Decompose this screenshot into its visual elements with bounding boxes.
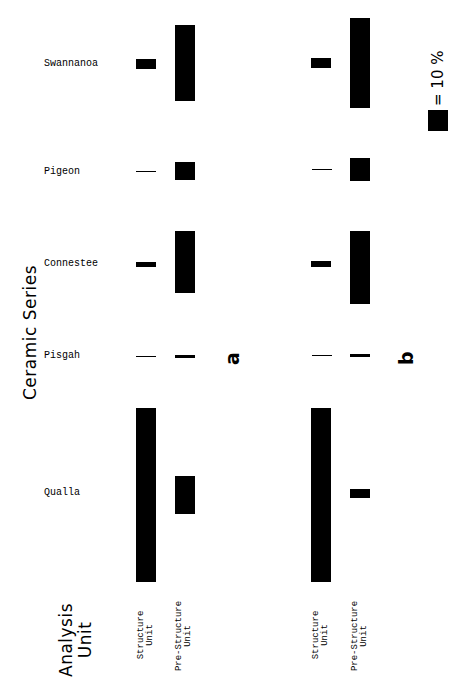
unit-label-b-structure: Structure Unit (312, 605, 330, 665)
bar-b-prestructure-qualla (350, 489, 370, 498)
bar-b-structure-pigeon (312, 169, 332, 170)
bar-b-structure-swannanoa (311, 58, 331, 68)
series-label-qualla: Qualla (44, 487, 80, 499)
axis-title-unit: Unit (76, 603, 95, 677)
bar-a-prestructure-pisgah (175, 355, 195, 358)
bar-a-prestructure-qualla (175, 476, 195, 514)
series-label-pisgah: Pisgah (44, 350, 80, 362)
unit-label-line2: Unit (146, 605, 155, 665)
bar-a-structure-pigeon (136, 171, 156, 172)
axis-title-analysis-unit: Analysis Unit (57, 603, 95, 677)
unit-label-line2: Unit (321, 605, 330, 665)
panel-label-b: b (396, 351, 416, 365)
panel-label-a: a (222, 352, 242, 365)
bar-b-prestructure-pigeon (350, 158, 370, 181)
axis-title-analysis: Analysis (57, 603, 76, 677)
bar-a-structure-connestee (136, 262, 156, 267)
axis-title-ceramic-series: Ceramic Series (21, 265, 40, 400)
bar-b-prestructure-swannanoa (350, 18, 370, 108)
unit-label-a-structure: Structure Unit (137, 605, 155, 665)
bar-b-structure-qualla (311, 408, 331, 582)
bar-a-prestructure-pigeon (175, 162, 195, 180)
bar-a-structure-swannanoa (136, 59, 156, 69)
bar-a-prestructure-connestee (175, 231, 195, 293)
series-label-swannanoa: Swannanoa (44, 58, 98, 70)
legend-scale-text: = 10 % (430, 51, 446, 106)
unit-label-a-prestructure: Pre-Structure Unit (175, 595, 193, 677)
series-label-connestee: Connestee (44, 258, 98, 270)
bar-b-structure-pisgah (312, 355, 332, 356)
bar-b-prestructure-pisgah (350, 354, 370, 357)
series-label-pigeon: Pigeon (44, 166, 80, 178)
unit-label-b-prestructure: Pre-Structure Unit (351, 595, 369, 677)
bar-a-structure-qualla (136, 408, 156, 582)
bar-a-prestructure-swannanoa (175, 25, 195, 101)
bar-a-structure-pisgah (136, 356, 156, 357)
unit-label-line2: Unit (360, 595, 369, 677)
bar-b-prestructure-connestee (350, 231, 370, 304)
legend-scale-square (428, 110, 448, 131)
unit-label-line2: Unit (184, 595, 193, 677)
bar-b-structure-connestee (311, 261, 331, 267)
